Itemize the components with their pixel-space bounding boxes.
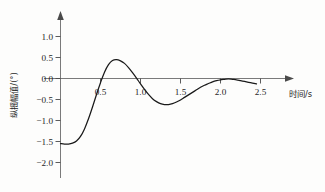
y-axis-title: 纵摇幅值/(°) bbox=[9, 72, 19, 117]
y-tick-label-6: −1.5 bbox=[36, 137, 53, 147]
x-tick-label-3: 1.5 bbox=[175, 87, 187, 97]
y-tick-label-5: −1.0 bbox=[36, 116, 53, 126]
y-tick-label-1: 1.0 bbox=[42, 32, 54, 42]
x-tick-label-2: 1.0 bbox=[135, 87, 147, 97]
chart-page: 1.0 0.5 0.0 −0.5 −1.0 −1.5 −2.0 0.5 1.0 … bbox=[0, 0, 325, 192]
chart-figure: 1.0 0.5 0.0 −0.5 −1.0 −1.5 −2.0 0.5 1.0 … bbox=[0, 0, 325, 192]
x-axis-title: 时间/s bbox=[289, 89, 312, 99]
y-tick-label-4: −0.5 bbox=[36, 95, 53, 105]
y-tick-label-2: 0.5 bbox=[42, 53, 54, 63]
x-tick-label-5: 2.5 bbox=[255, 87, 267, 97]
damped-oscillation-line-chart: 1.0 0.5 0.0 −0.5 −1.0 −1.5 −2.0 0.5 1.0 … bbox=[0, 0, 325, 192]
y-tick-label-3: 0.0 bbox=[42, 74, 54, 84]
y-tick-label-7: −2.0 bbox=[36, 158, 53, 168]
x-tick-label-4: 2.0 bbox=[215, 87, 227, 97]
